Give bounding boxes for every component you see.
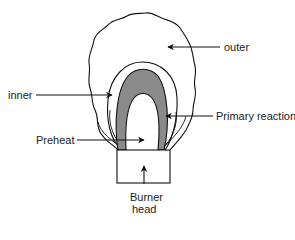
- burner-label-line2: head: [132, 203, 156, 215]
- outer-label: outer: [224, 41, 249, 53]
- preheat-label: Preheat: [36, 134, 75, 146]
- primary-reaction-label: Primary reaction: [216, 110, 295, 122]
- inner-label: inner: [8, 89, 32, 101]
- burner-label-line1: Burner: [130, 191, 163, 203]
- primary-reaction-zone: [116, 69, 167, 150]
